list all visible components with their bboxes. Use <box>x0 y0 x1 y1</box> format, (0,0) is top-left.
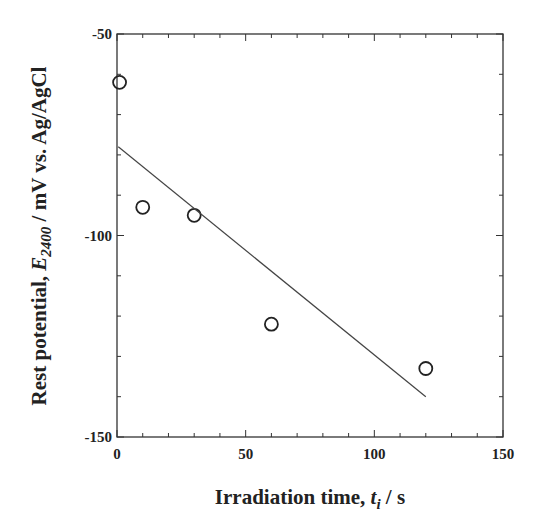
plot-border <box>117 34 503 437</box>
y-tick-label: -100 <box>85 228 113 244</box>
x-tick-label: 150 <box>492 446 515 462</box>
y-tick-label: -50 <box>92 26 112 42</box>
x-axis-ticks: 050100150 <box>113 34 514 462</box>
y-axis-ticks: -150-100-50 <box>85 26 504 445</box>
data-point <box>419 362 432 375</box>
x-tick-label: 50 <box>238 446 253 462</box>
data-point <box>136 201 149 214</box>
y-tick-label: -150 <box>85 429 113 445</box>
data-point <box>188 209 201 222</box>
x-axis-title: Irradiation time, ti / s <box>215 485 405 512</box>
chart: 050100150 -150-100-50 Irradiation time, … <box>0 0 538 525</box>
y-axis-title: Rest potential, E2400 / mV vs. Ag/AgCl <box>27 66 54 405</box>
x-tick-label: 100 <box>363 446 386 462</box>
x-tick-label: 0 <box>113 446 121 462</box>
plot-frame <box>117 34 503 437</box>
data-point <box>265 318 278 331</box>
fit-line <box>118 147 426 397</box>
data-series <box>113 76 432 397</box>
data-point <box>113 76 126 89</box>
